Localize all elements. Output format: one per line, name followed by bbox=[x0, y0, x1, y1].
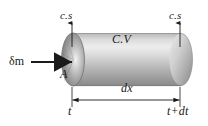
time-start-label: t bbox=[68, 105, 72, 117]
control-volume-label: C.V bbox=[112, 33, 131, 45]
length-label: dx bbox=[121, 82, 133, 94]
time-end-label: t+dt bbox=[167, 105, 189, 117]
control-surface-left-label: c.s bbox=[60, 10, 73, 21]
area-label: A bbox=[60, 68, 68, 80]
mass-flow-label: δm bbox=[9, 55, 24, 67]
control-surface-right-label: c.s bbox=[169, 10, 182, 21]
control-volume-figure: c.s c.s C.V δm A dx t t+dt bbox=[0, 0, 208, 126]
